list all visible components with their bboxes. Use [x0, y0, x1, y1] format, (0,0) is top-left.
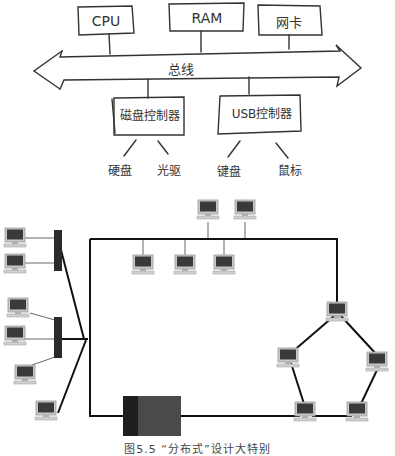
- cpu-label: CPU: [92, 13, 120, 29]
- computer-icon: [197, 200, 219, 219]
- computer-icon: [4, 326, 26, 345]
- optical-drive-label: 光驱: [157, 164, 181, 178]
- computer-icon: [4, 254, 26, 273]
- server: [123, 396, 181, 436]
- computer-icon: [294, 402, 316, 421]
- computer-icon: [7, 298, 29, 317]
- computer-icon: [234, 200, 256, 219]
- computer-icon: [174, 255, 196, 274]
- computer-icon: [277, 348, 299, 367]
- computer-icon: [346, 402, 368, 421]
- disk-controller-label: 磁盘控制器: [120, 108, 180, 123]
- nic-label: 网卡: [276, 15, 302, 30]
- mouse-label: 鼠标: [278, 164, 302, 178]
- computer-icon: [35, 401, 57, 420]
- usb-controller-label: USB控制器: [232, 107, 293, 121]
- hard-disk-label: 硬盘: [108, 163, 132, 178]
- hub-upper: [54, 230, 62, 271]
- network-diagram: [4, 200, 388, 436]
- hub-lower: [54, 317, 62, 358]
- computer-icon: [213, 255, 235, 274]
- computer-icon: [326, 302, 348, 321]
- ram-label: RAM: [192, 10, 223, 26]
- keyboard-label: 键盘: [217, 164, 241, 179]
- computer-icon: [4, 228, 26, 247]
- figure-caption: 图5.5 “分布式”设计大特别: [0, 440, 395, 456]
- computer-icon: [14, 365, 36, 384]
- bus-arrow: [34, 45, 361, 89]
- bus-label: 总线: [168, 62, 194, 77]
- computer-icon: [132, 255, 154, 274]
- computer-icon: [366, 352, 388, 371]
- bus-diagram: [34, 3, 361, 158]
